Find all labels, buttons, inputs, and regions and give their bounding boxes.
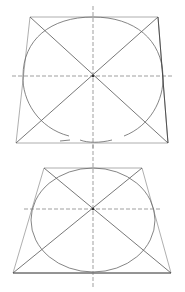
bottom-center-point [92, 208, 95, 211]
top-center-point [92, 75, 95, 78]
canvas-background [0, 0, 185, 292]
technical-drawing [0, 0, 185, 292]
